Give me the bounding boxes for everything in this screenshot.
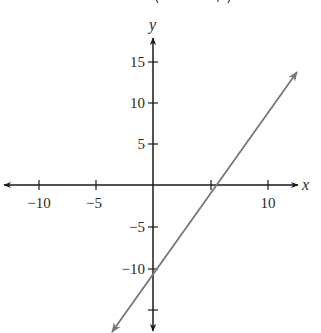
y-tick-label-10: 10 [130, 95, 145, 111]
y-tick-label-5: 5 [138, 136, 146, 152]
x-axis-label: x [301, 176, 309, 193]
x-tick-label-10: 10 [261, 195, 276, 211]
coordinate-plane: −10 −5 10 15 10 5 −5 −10 x y [0, 0, 321, 333]
y-axis-label: y [147, 16, 157, 34]
x-tick-label-neg5: −5 [86, 195, 102, 211]
x-tick-label-neg10: −10 [27, 195, 50, 211]
y-tick-label-neg5: −5 [129, 219, 145, 235]
y-tick-label-neg10: −10 [122, 261, 145, 277]
y-tick-label-15: 15 [130, 54, 145, 70]
